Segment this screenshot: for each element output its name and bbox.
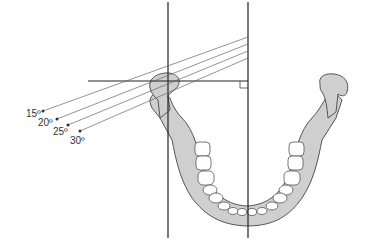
mandible-body xyxy=(150,90,342,226)
angle-label-25: 25º xyxy=(53,126,68,137)
angle-label-30: 30º xyxy=(70,135,85,146)
right-angle-marker xyxy=(240,81,248,88)
mandible-angle-diagram: 15º 20º 25º 30º xyxy=(0,0,377,244)
angle-rays xyxy=(43,37,248,131)
angle-label-20: 20º xyxy=(38,117,53,128)
